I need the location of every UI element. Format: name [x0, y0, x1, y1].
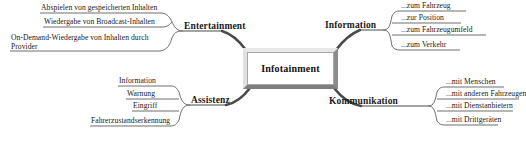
leaf-label-kommunikation-2[interactable]: ...mit anderen Fahrzeugen [446, 90, 526, 98]
branch-label-information[interactable]: Information [325, 21, 376, 31]
leaf-label-entertainment-3[interactable]: On-Demand-Wiedergabe von Inhalten durch … [11, 33, 159, 52]
leaf-label-information-3[interactable]: ...zum Fahrzeugumfeld [401, 26, 472, 34]
leaf-label-assistenz-4[interactable]: Fahrerzustandserkennung [91, 117, 170, 125]
leaf-label-entertainment-2[interactable]: Wiedergabe von Broadcast-Inhalten [44, 18, 155, 26]
center-node-label: Infotainment [261, 63, 320, 74]
leaf-label-entertainment-1[interactable]: Abspielen von gespeicherten Inhalten [41, 4, 157, 12]
leaf-label-kommunikation-3[interactable]: ...mit Dienstanbietern [446, 102, 513, 110]
center-node-face: Infotainment [247, 52, 334, 85]
leaf-label-assistenz-1[interactable]: Information [119, 77, 156, 85]
center-node-infotainment: Infotainment [243, 48, 338, 89]
leaf-label-information-2[interactable]: ...zur Position [401, 14, 444, 22]
branch-label-kommunikation[interactable]: Kommunikation [329, 97, 398, 107]
branch-label-entertainment[interactable]: Entertainment [184, 22, 246, 32]
leaf-label-information-4[interactable]: ...zum Verkehr [401, 41, 446, 49]
leaf-label-information-1[interactable]: ...zum Fahrzeug [401, 2, 451, 10]
leaf-label-assistenz-3[interactable]: Eingriff [133, 102, 157, 110]
branch-label-assistenz[interactable]: Assistenz [191, 96, 230, 106]
leaf-label-kommunikation-4[interactable]: ...mit Drittgeräten [446, 116, 501, 124]
leaf-label-assistenz-2[interactable]: Warnung [127, 90, 155, 98]
leaf-label-kommunikation-1[interactable]: ...mit Menschen [446, 78, 496, 86]
